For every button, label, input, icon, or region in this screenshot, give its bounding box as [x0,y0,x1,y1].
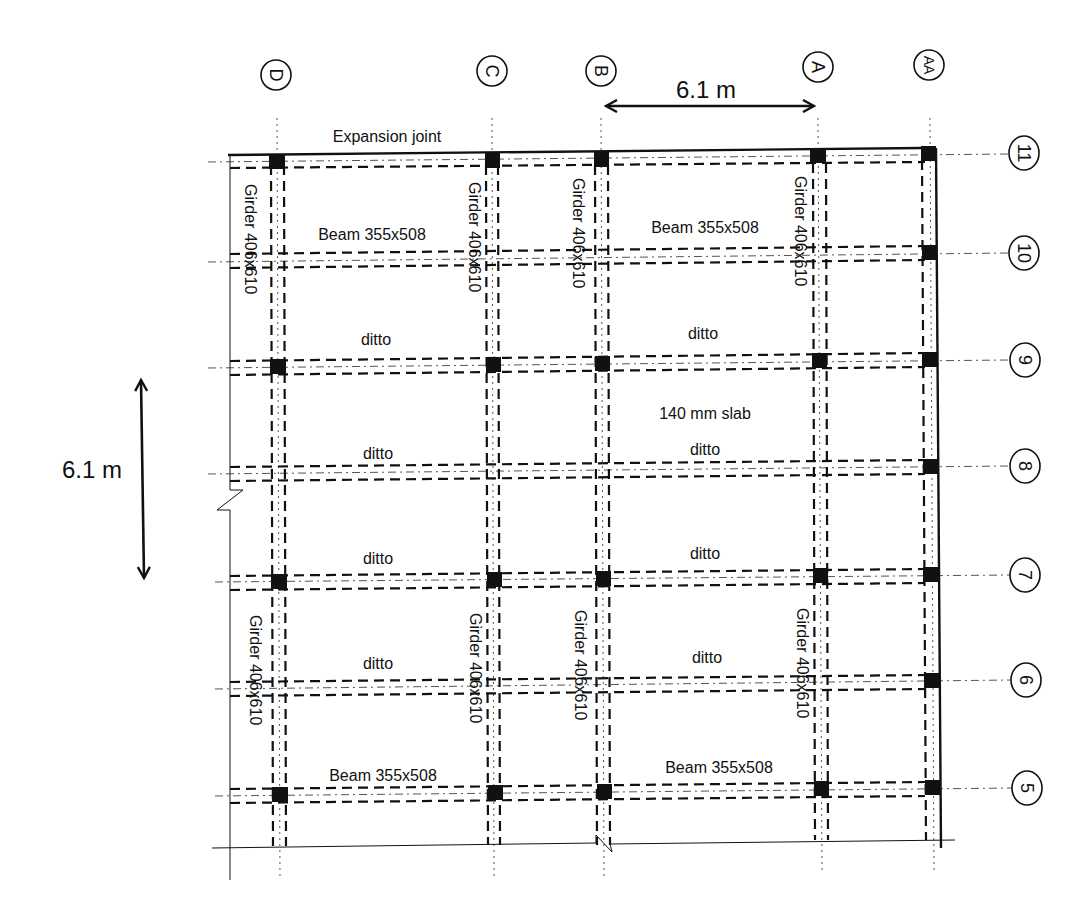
svg-text:5: 5 [1017,783,1037,793]
beam-9-bottom [230,367,925,375]
column-AA-5 [925,780,940,795]
grid-bubble-10: 10 [1009,236,1039,270]
girder-label-upper-A: Girder 406x610 [792,176,809,286]
column-C-7 [487,572,502,587]
grid-bubble-11: 11 [1009,136,1039,170]
svg-text:10: 10 [1014,243,1034,263]
beam-label-bottom-right: Beam 355x508 [665,759,773,776]
dimension-horizontal: 6.1 m [606,76,814,106]
column-AA-6 [924,673,939,688]
dimension-vertical: 6.1 m [62,380,144,578]
grid-line-D [277,118,280,880]
girder-label-lower-B: Girder 406x610 [572,610,589,720]
beam-label-top-left: Beam 355x508 [318,226,426,243]
dimension-label-vertical: 6.1 m [62,456,122,483]
ditto-label: ditto [692,649,722,666]
svg-text:6: 6 [1016,675,1036,685]
column-D-5 [272,787,288,802]
girder-AA-left [922,160,926,840]
ditto-label: ditto [363,550,393,567]
beam-5-bottom [230,796,925,803]
dimension-arrow-vertical [141,380,144,578]
column-C-9 [486,357,501,372]
column-B-11 [594,152,609,167]
girder-B-right [608,165,610,845]
svg-text:A: A [808,61,828,73]
column-AA-7 [923,567,938,582]
grid-line-A [818,118,822,872]
girder-label-lower-D: Girder 406x610 [247,615,264,725]
svg-text:B: B [591,65,611,77]
column-A-5 [814,781,829,796]
column-C-11 [485,153,500,168]
column-D-9 [270,359,286,374]
girder-label-lower-A: Girder 406x610 [794,608,811,718]
ditto-label: ditto [688,325,718,342]
grid-line-C [492,118,494,880]
girder-C-left [486,165,488,845]
svg-text:11: 11 [1014,144,1034,163]
column-A-7 [813,568,828,583]
beam-8-bottom [230,474,925,481]
column-D-7 [271,574,287,589]
girder-label-lower-C: Girder 406x610 [467,613,484,723]
column-B-7 [596,571,611,586]
grid-line-AA [930,118,934,872]
svg-text:C: C [482,65,502,78]
beam-8-top [230,460,925,467]
girder-label-upper-B: Girder 406x610 [570,178,587,288]
grid-bubble-C: C [477,56,507,86]
grid-bubble-A: A [803,52,833,82]
girder-label-upper-D: Girder 406x610 [242,184,259,294]
grid-bubble-B: B [586,56,616,86]
left-slab-edge [217,155,243,880]
grid-bubble-9: 9 [1010,343,1040,377]
svg-text:AA: AA [921,56,937,75]
grid-bubble-7: 7 [1010,558,1040,592]
girder-B-left [595,165,597,845]
girder-A-right [826,163,828,840]
ditto-label: ditto [363,655,393,672]
grid-line-5 [215,788,1014,796]
beam-label-top-right: Beam 355x508 [651,219,759,236]
column-AA-8 [923,459,938,474]
ditto-label: ditto [363,445,393,462]
svg-text:9: 9 [1015,355,1035,365]
dimension-label-horizontal: 6.1 m [676,76,736,103]
column-A-11 [810,148,826,163]
ditto-label: ditto [690,545,720,562]
row-grid-bubbles: 11 10 9 8 7 6 5 [1009,136,1042,805]
framing-plan: D C B A AA 11 10 9 8 [0,0,1086,922]
column-AA-9 [922,352,937,367]
svg-text:8: 8 [1015,461,1035,471]
column-C-5 [488,785,503,800]
girder-label-upper-C: Girder 406x610 [466,182,483,292]
column-AA-11 [921,146,936,161]
grid-bubble-AA: AA [914,50,944,80]
grid-line-B [601,118,604,880]
slab-thickness-label: 140 mm slab [659,405,751,422]
ditto-label: ditto [690,441,720,458]
column-grid-bubbles: D C B A AA [261,50,944,90]
bottom-slab-edge [212,835,955,852]
girder-D-left [271,165,273,846]
column-A-9 [812,353,827,368]
grid-bubble-6: 6 [1011,663,1041,697]
column-B-9 [595,356,610,371]
column-B-5 [597,784,612,799]
svg-text:D: D [266,69,286,82]
expansion-joint-label: Expansion joint [333,128,442,145]
ditto-label: ditto [361,331,391,348]
girder-A-left [813,163,815,840]
column-AA-10 [922,245,937,260]
grid-bubble-D: D [261,60,291,90]
grid-bubble-8: 8 [1010,449,1040,483]
column-D-11 [269,154,285,169]
grid-bubble-5: 5 [1012,771,1042,805]
svg-text:7: 7 [1015,570,1035,580]
beam-label-bottom-left: Beam 355x508 [329,767,437,784]
girder-C-right [498,165,500,845]
